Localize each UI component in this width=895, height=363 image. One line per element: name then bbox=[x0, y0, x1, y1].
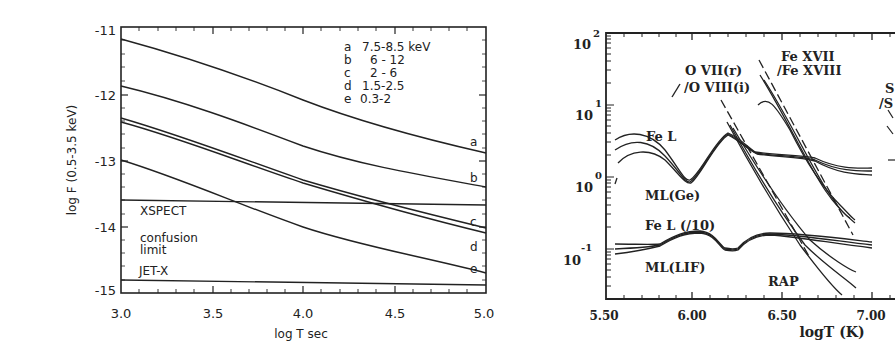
curve-label-a: a bbox=[470, 135, 477, 149]
y-tick-label: -12 bbox=[95, 88, 116, 103]
y-tick-exp: 0 bbox=[595, 170, 602, 181]
left-x-tick-labels: 3.0 3.5 4.0 4.5 5.0 bbox=[111, 306, 495, 321]
left-y-tick-labels: -11 -12 -13 -14 -15 bbox=[95, 23, 116, 298]
figure-canvas: a b c d e a 7.5-8.5 keV b 6 - 12 c 2 - 6… bbox=[0, 0, 895, 363]
x-tick-label: 4.0 bbox=[293, 306, 314, 321]
jetx-line bbox=[121, 280, 486, 285]
s-label-2: /S bbox=[879, 96, 893, 111]
fexvii-label-1: Fe XVII bbox=[781, 49, 835, 64]
right-y-ticks bbox=[606, 36, 614, 299]
y-tick-base: 10 bbox=[575, 180, 593, 195]
right-y-tick-labels: 10 2 10 1 10 0 10 -1 bbox=[563, 28, 602, 268]
curve-label-c: c bbox=[470, 215, 477, 229]
right-curves-fe bbox=[758, 60, 855, 235]
x-tick-label: 3.0 bbox=[111, 306, 132, 321]
right-curves-oxygen bbox=[721, 100, 856, 295]
x-tick-label: 4.5 bbox=[385, 306, 406, 321]
ovii-label-2: /O VIII(i) bbox=[684, 80, 750, 95]
y-tick-base: 10 bbox=[573, 37, 591, 52]
right-x-axis-title: logT (K) bbox=[799, 324, 864, 340]
x-tick-label: 5.0 bbox=[474, 306, 495, 321]
ovii-slash bbox=[672, 84, 680, 97]
s-label-1: S bbox=[885, 81, 894, 96]
right-curves-sulfur bbox=[887, 110, 895, 160]
legend-label-e: 0.3-2 bbox=[360, 92, 391, 106]
legend-label-c: 2 - 6 bbox=[370, 66, 397, 80]
y-tick-exp: 1 bbox=[595, 98, 602, 109]
x-tick-label: 5.50 bbox=[589, 309, 618, 323]
legend-label-a: 7.5-8.5 keV bbox=[362, 40, 431, 54]
legend-key-d: d bbox=[344, 79, 352, 93]
curve-s-1 bbox=[888, 110, 893, 118]
right-annotations: O VII(r) /O VIII(i) Fe XVII /Fe XVIII S … bbox=[645, 49, 894, 289]
x-tick-label: 6.50 bbox=[767, 309, 796, 323]
right-x-tick-labels: 5.50 6.00 6.50 7.00 bbox=[589, 309, 885, 323]
curve-fel-ge-4 bbox=[615, 178, 617, 184]
fel-lif-label: Fe L (/10) bbox=[645, 218, 715, 233]
curve-b bbox=[121, 86, 486, 187]
y-tick-label: -13 bbox=[95, 154, 116, 169]
left-y-axis-title: log F (0.5-3.5 keV) bbox=[65, 105, 79, 216]
x-tick-label: 3.5 bbox=[203, 306, 224, 321]
curve-label-e: e bbox=[470, 262, 477, 276]
curve-label-b: b bbox=[470, 171, 478, 185]
y-tick-exp: -1 bbox=[581, 242, 592, 253]
left-x-ticks bbox=[139, 27, 467, 293]
rap-label: RAP bbox=[768, 274, 799, 289]
legend-label-b: 6 - 12 bbox=[370, 53, 405, 67]
right-curves-lif bbox=[615, 231, 872, 254]
y-tick-label: -14 bbox=[95, 220, 116, 235]
left-legend: a 7.5-8.5 keV b 6 - 12 c 2 - 6 d 1.5-2.5… bbox=[344, 40, 431, 106]
left-chart: a b c d e a 7.5-8.5 keV b 6 - 12 c 2 - 6… bbox=[65, 23, 494, 341]
y-tick-label: -11 bbox=[95, 23, 116, 38]
right-chart: O VII(r) /O VIII(i) Fe XVII /Fe XVIII S … bbox=[563, 28, 895, 340]
mllif-label: ML(LIF) bbox=[645, 260, 705, 275]
legend-key-a: a bbox=[344, 40, 351, 54]
x-tick-label: 7.00 bbox=[856, 309, 885, 323]
y-tick-label: -15 bbox=[95, 283, 116, 298]
legend-key-c: c bbox=[344, 66, 351, 80]
xspect-label: XSPECT bbox=[140, 204, 187, 218]
left-x-axis-title: log T sec bbox=[274, 327, 327, 341]
ovii-label-1: O VII(r) bbox=[685, 63, 742, 78]
fexvii-label-2: /Fe XVIII bbox=[777, 63, 841, 78]
confusion-label-2: limit bbox=[140, 243, 167, 257]
legend-key-b: b bbox=[344, 53, 352, 67]
left-curves bbox=[121, 39, 486, 285]
y-tick-base: 10 bbox=[575, 108, 593, 123]
curve-label-d: d bbox=[470, 240, 478, 254]
left-annotations: XSPECT confusion limit JET-X bbox=[138, 204, 198, 278]
legend-key-e: e bbox=[344, 92, 351, 106]
left-plot-frame bbox=[121, 27, 486, 293]
y-tick-exp: 2 bbox=[593, 28, 600, 39]
mlge-label: ML(Ge) bbox=[645, 188, 700, 203]
curve-s-2 bbox=[887, 126, 893, 134]
legend-label-d: 1.5-2.5 bbox=[362, 79, 405, 93]
jetx-label: JET-X bbox=[138, 264, 168, 278]
x-tick-label: 6.00 bbox=[677, 309, 706, 323]
y-tick-base: 10 bbox=[563, 253, 581, 268]
fel-ge-label: Fe L bbox=[646, 129, 676, 144]
